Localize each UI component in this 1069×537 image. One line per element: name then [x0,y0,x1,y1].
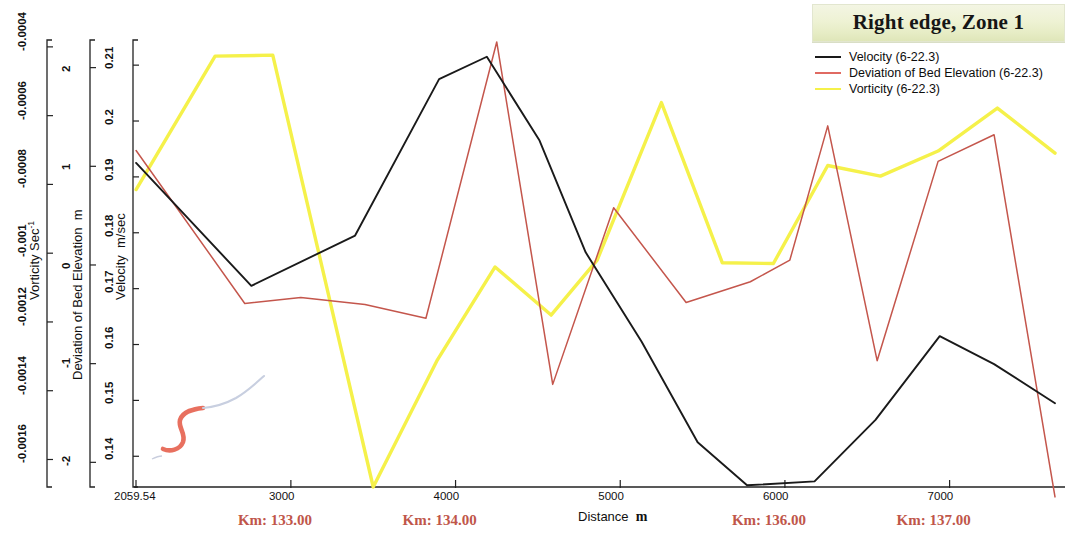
axis-tick-label-deviation: 1 [60,164,72,170]
river-reach-sketch-inset [152,376,264,459]
axis-tick-label-velocity: 0.19 [103,159,115,181]
legend-items: Velocity (6-22.3)Deviation of Bed Elevat… [812,49,1065,97]
legend-color-swatch [815,56,841,58]
legend-item: Vorticity (6-22.3) [815,81,1065,97]
river-tail [152,456,162,459]
x-axis-tick-label: 3000 [269,490,295,502]
legend: Right edge, Zone 1 Velocity (6-22.3)Devi… [812,4,1065,97]
km-marker-label: Km: 137.00 [897,512,971,529]
axis-tick-label-velocity: 0.14 [103,438,115,460]
axis-spine-deviation [90,40,95,487]
axis-tick-label-deviation: 2 [60,65,72,71]
series-line-vorticity [136,55,1055,487]
river-centerline [203,376,264,408]
series-line-velocity [136,57,1055,486]
legend-item-label: Velocity (6-22.3) [849,50,939,64]
axis-tick-label-vorticity: -0.0004 [16,12,28,51]
chart-title: Right edge, Zone 1 [812,4,1065,42]
axis-tick-label-vorticity: -0.0006 [16,81,28,120]
axis-title-deviation: Deviation of Bed Elevation m [70,209,85,380]
chart-page: -0.0016-0.0014-0.0012-0.001-0.0008-0.000… [0,0,1069,537]
x-axis-tick-label: 5000 [598,490,624,502]
axis-tick-label-deviation: -2 [60,456,72,466]
axis-title-vorticity: Vorticity Sec-1 [26,221,42,300]
axis-tick-label-velocity: 0.2 [103,109,115,125]
river-highlight-reach [163,408,203,450]
x-axis-tick-label: 2059.54 [114,490,156,502]
legend-item-label: Vorticity (6-22.3) [849,82,940,96]
axis-title-velocity: Velocity m/sec [113,213,128,300]
legend-item-label: Deviation of Bed Elevation (6-22.3) [849,66,1043,80]
axis-tick-label-velocity: 0.21 [103,47,115,69]
legend-item: Velocity (6-22.3) [815,49,1065,65]
legend-color-swatch [815,88,841,90]
axis-tick-label-vorticity: -0.0008 [16,149,28,188]
x-axis-tick-label: 4000 [434,490,460,502]
axis-tick-label-velocity: 0.15 [103,382,115,404]
axis-tick-label-vorticity: -0.0014 [16,356,28,395]
km-marker-label: Km: 136.00 [732,512,806,529]
legend-item: Deviation of Bed Elevation (6-22.3) [815,65,1065,81]
axis-spine-velocity [133,40,138,487]
axis-tick-label-velocity: 0.16 [103,326,115,348]
legend-color-swatch [815,72,841,74]
km-marker-label: Km: 134.00 [403,512,477,529]
axis-tick-label-vorticity: -0.0016 [16,424,28,463]
x-axis-tick-label: 6000 [763,490,789,502]
x-axis-tick-label: 7000 [928,490,954,502]
km-marker-label: Km: 133.00 [238,512,312,529]
x-axis-title: Distance m [578,509,647,525]
axis-spine-vorticity [47,40,52,487]
